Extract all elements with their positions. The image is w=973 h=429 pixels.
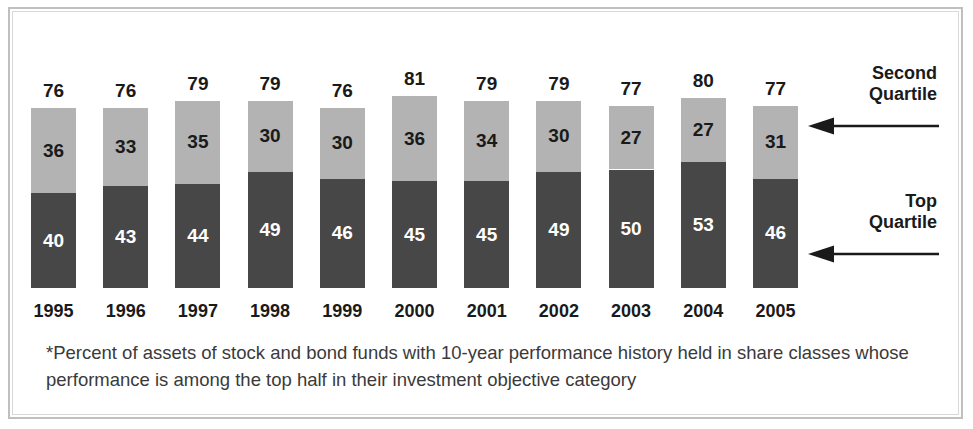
bar-group: 793544 [175, 0, 220, 288]
x-axis-tick-label: 1996 [94, 302, 158, 320]
second-quartile-value-label: 36 [31, 141, 76, 160]
top-quartile-value-label: 44 [175, 226, 220, 245]
second-quartile-value-label: 36 [392, 129, 437, 148]
top-quartile-value-label: 46 [753, 223, 798, 242]
top-quartile-value-label: 45 [464, 225, 509, 244]
bar-total-label: 76 [103, 81, 148, 100]
x-axis-tick-label: 2003 [599, 302, 663, 320]
second-quartile-value-label: 30 [320, 133, 365, 152]
bar-total-label: 77 [609, 79, 654, 98]
bar-group: 763046 [320, 0, 365, 288]
annotation-top-quartile: Top Quartile [869, 191, 937, 232]
bar-group: 793049 [248, 0, 293, 288]
top-quartile-value-label: 49 [248, 220, 293, 239]
top-quartile-value-label: 49 [536, 220, 581, 239]
chart-figure: 7636401995763343199679354419977930491998… [0, 0, 973, 429]
second-quartile-value-label: 30 [248, 126, 293, 145]
second-quartile-value-label: 31 [753, 132, 798, 151]
bar-group: 772750 [609, 0, 654, 288]
annotation-second-quartile: Second Quartile [869, 63, 937, 104]
second-quartile-value-label: 30 [536, 126, 581, 145]
bar-group: 802753 [681, 0, 726, 288]
bar-total-label: 79 [175, 74, 220, 93]
annotation-top-quartile-line2: Quartile [869, 212, 937, 233]
bar-total-label: 79 [248, 74, 293, 93]
x-axis-tick-label: 2000 [383, 302, 447, 320]
arrow-to-second-quartile-icon [808, 115, 940, 137]
bar-total-label: 81 [392, 69, 437, 88]
bar-group: 793049 [536, 0, 581, 288]
bar-group: 813645 [392, 0, 437, 288]
second-quartile-value-label: 34 [464, 131, 509, 150]
x-axis-tick-label: 2005 [744, 302, 808, 320]
x-axis-tick-label: 2004 [671, 302, 735, 320]
bar-total-label: 76 [31, 81, 76, 100]
second-quartile-value-label: 27 [681, 120, 726, 139]
bar-total-label: 80 [681, 71, 726, 90]
top-quartile-value-label: 45 [392, 225, 437, 244]
bar-total-label: 76 [320, 81, 365, 100]
top-quartile-value-label: 53 [681, 215, 726, 234]
second-quartile-value-label: 35 [175, 132, 220, 151]
annotation-top-quartile-line1: Top [869, 191, 937, 212]
annotation-second-quartile-line2: Quartile [869, 84, 937, 105]
x-axis-tick-label: 2002 [527, 302, 591, 320]
second-quartile-value-label: 33 [103, 137, 148, 156]
annotation-second-quartile-line1: Second [869, 63, 937, 84]
bar-group: 773146 [753, 0, 798, 288]
second-quartile-value-label: 27 [609, 128, 654, 147]
x-axis-tick-label: 1997 [166, 302, 230, 320]
bar-total-label: 77 [753, 79, 798, 98]
top-quartile-value-label: 40 [31, 231, 76, 250]
chart-footnote: *Percent of assets of stock and bond fun… [46, 340, 926, 394]
x-axis-tick-label: 1999 [310, 302, 374, 320]
bar-total-label: 79 [536, 74, 581, 93]
x-axis-tick-label: 2001 [455, 302, 519, 320]
x-axis-tick-label: 1998 [238, 302, 302, 320]
arrow-to-top-quartile-icon [808, 243, 940, 265]
bar-group: 763640 [31, 0, 76, 288]
top-quartile-value-label: 50 [609, 219, 654, 238]
top-quartile-value-label: 43 [103, 227, 148, 246]
top-quartile-value-label: 46 [320, 223, 365, 242]
bar-group: 763343 [103, 0, 148, 288]
bar-total-label: 79 [464, 74, 509, 93]
x-axis-tick-label: 1995 [22, 302, 86, 320]
bar-group: 793445 [464, 0, 509, 288]
